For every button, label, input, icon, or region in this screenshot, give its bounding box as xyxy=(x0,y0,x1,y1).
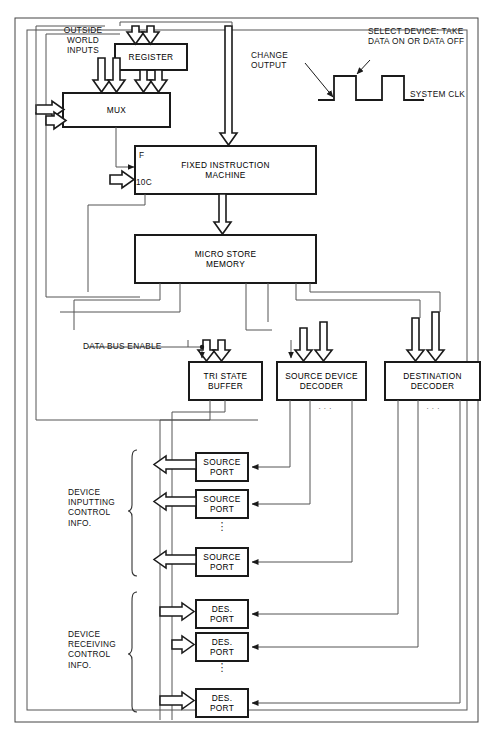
ellipsis-des-ports: ⋮ xyxy=(207,662,237,672)
label-outside-world-inputs: OUTSIDEWORLDINPUTS xyxy=(52,25,114,56)
ellipsis-source-decoder: · · · xyxy=(310,404,340,414)
source-port-1[interactable]: SOURCEPORT xyxy=(196,453,248,481)
source-port-wiring xyxy=(154,400,352,568)
block-tri-state-buffer[interactable]: TRI STATEBUFFER xyxy=(189,362,262,400)
ellipsis-destination-decoder: · · · xyxy=(418,404,448,414)
label-change-output: CHANGEOUTPUT xyxy=(251,50,311,70)
timing-annotation-arrows xyxy=(305,60,370,97)
source-port-3[interactable]: SOURCEPORT xyxy=(196,548,248,576)
label-device-receiving-control-info: DEVICERECEIVINGCONTROLINFO. xyxy=(68,629,132,670)
block-register[interactable]: REGISTER xyxy=(115,44,187,70)
block-micro-store-memory[interactable]: MICRO STOREMEMORY xyxy=(135,235,316,283)
label-select-device: SELECT DEVICE: TAKEDATA ON OR DATA OFF xyxy=(368,26,493,46)
label-system-clk: SYSTEM CLK xyxy=(410,89,465,99)
block-fixed-instruction-machine[interactable]: FIXED INSTRUCTIONMACHINE xyxy=(135,146,316,194)
des-port-2[interactable]: DES.PORT xyxy=(196,633,248,661)
timing-waveform xyxy=(318,76,424,100)
label-device-inputting-control-info: DEVICEINPUTTINGCONTROLINFO. xyxy=(68,487,132,528)
block-diagram-canvas: REGISTER MUX FIXED INSTRUCTIONMACHINE MI… xyxy=(0,0,495,731)
label-f-input: F xyxy=(139,150,144,160)
block-mux[interactable]: MUX xyxy=(63,93,170,127)
block-destination-decoder[interactable]: DESTINATIONDECODER xyxy=(385,362,480,400)
label-ioc-input: 10C xyxy=(136,177,152,187)
des-port-1[interactable]: DES.PORT xyxy=(196,600,248,628)
block-source-device-decoder[interactable]: SOURCE DEVICEDECODER xyxy=(277,362,366,400)
source-port-2[interactable]: SOURCEPORT xyxy=(196,490,248,518)
ellipsis-source-ports: ⋮ xyxy=(207,521,237,531)
des-port-3[interactable]: DES.PORT xyxy=(196,689,248,717)
label-data-bus-enable: DATA BUS ENABLE xyxy=(83,341,162,351)
